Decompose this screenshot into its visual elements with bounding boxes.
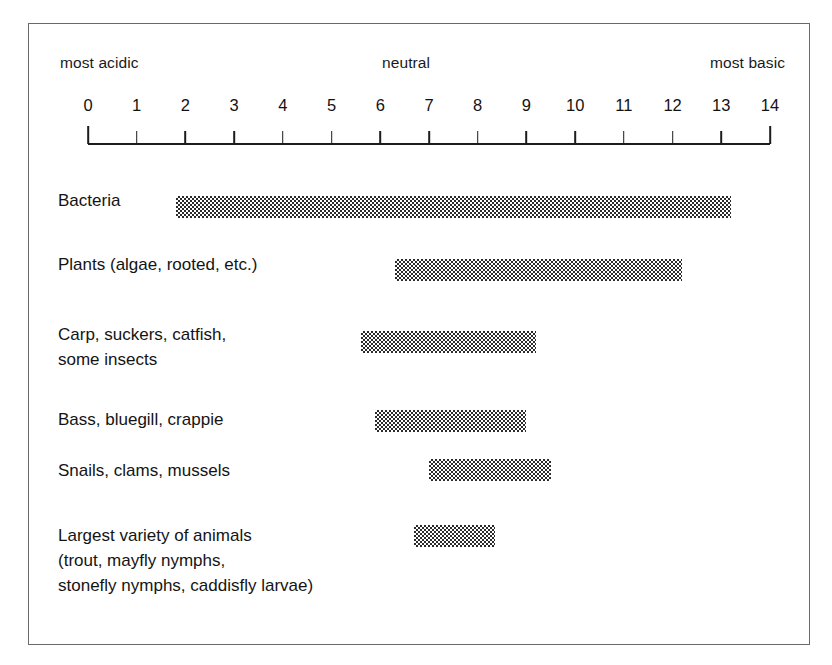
ph-range-bar [176,196,731,218]
ph-range-bar [395,259,682,281]
organism-label: Snails, clams, mussels [58,458,230,483]
ph-range-bar [375,410,526,432]
ph-tolerance-figure: most acidic neutral most basic 012345678… [0,0,832,665]
ph-range-bar [429,459,551,481]
organism-label: Largest variety of animals (trout, mayfl… [58,523,313,598]
organism-label: Plants (algae, rooted, etc.) [58,252,257,277]
organism-label: Carp, suckers, catfish, some insects [58,322,226,372]
ph-range-bar [361,331,536,353]
organism-label: Bacteria [58,188,120,213]
organism-rows: BacteriaPlants (algae, rooted, etc.)Carp… [0,0,832,665]
ph-range-bar [414,525,494,547]
organism-label: Bass, bluegill, crappie [58,407,223,432]
